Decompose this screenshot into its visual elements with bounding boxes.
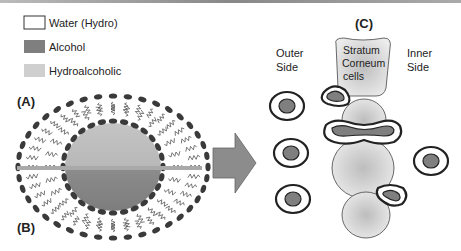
- arrow-icon: [213, 133, 256, 193]
- outer-side-label-1: Outer: [276, 47, 304, 59]
- cells-label-3: cells: [343, 70, 364, 82]
- ethosome-vesicle: [15, 93, 211, 241]
- legend-label-water: Water (Hydro): [49, 17, 118, 29]
- divider-bar: [17, 166, 202, 170]
- legend: Water (Hydro) Alcohol Hydroalcoholic: [24, 16, 122, 77]
- ethosome-free-4: [414, 147, 448, 175]
- legend-label-alcohol: Alcohol: [49, 41, 85, 53]
- cells-label-1: Stratum: [343, 44, 380, 56]
- ethosome-squeezed-top: [322, 86, 350, 106]
- ethosome-free-3: [276, 185, 310, 213]
- panel-c-label: (C): [355, 16, 373, 31]
- panel-b-label: (B): [17, 220, 35, 235]
- inner-side-label-2: Side: [407, 61, 429, 73]
- cells-label-2: Corneum: [342, 57, 385, 69]
- ethosome-free-2: [274, 139, 308, 167]
- inner-side-label-1: Inner: [407, 47, 432, 59]
- legend-label-hydroalcoholic: Hydroalcoholic: [49, 65, 122, 77]
- ethosome-free-1: [270, 92, 304, 120]
- legend-swatch-water: [24, 16, 45, 29]
- ethosome-squeezed-middle: [324, 121, 401, 144]
- panel-a-label: (A): [17, 94, 35, 109]
- legend-swatch-alcohol: [24, 40, 45, 53]
- legend-swatch-hydroalcoholic: [24, 64, 45, 77]
- ethosome-diagram: Water (Hydro) Alcohol Hydroalcoholic (A)…: [0, 0, 461, 251]
- outer-side-label-2: Side: [276, 61, 298, 73]
